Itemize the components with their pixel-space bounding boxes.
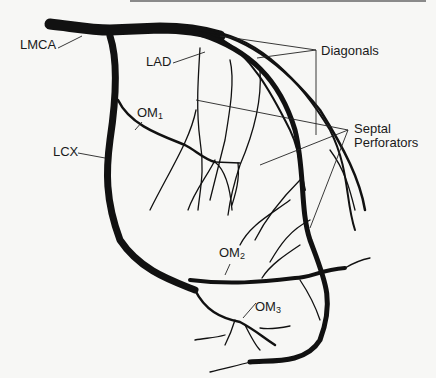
diagonal-3	[220, 38, 305, 190]
label-diagonals: Diagonals	[321, 44, 379, 58]
om1-vessel	[118, 100, 215, 162]
lcx-vessel	[107, 36, 195, 290]
label-om1-base: OM	[137, 105, 158, 120]
lmca-vessel	[50, 24, 220, 36]
label-lcx: LCX	[53, 145, 78, 159]
label-septal: Septal	[354, 122, 391, 136]
om2-leader	[225, 264, 230, 275]
label-lad: LAD	[146, 55, 171, 69]
label-om3-sub: 3	[276, 305, 281, 315]
septal-leader-3	[310, 130, 348, 228]
label-om2-sub: 2	[240, 251, 245, 261]
label-lmca: LMCA	[20, 38, 56, 52]
label-perforators: Perforators	[354, 136, 418, 150]
septal-leader-1	[196, 100, 348, 130]
septal-leader-2	[260, 130, 348, 165]
lad-leader	[173, 52, 205, 63]
lmca-leader	[58, 36, 82, 48]
label-om1-sub: 1	[158, 111, 163, 121]
lcx-leader	[78, 153, 105, 158]
label-om3: OM3	[255, 300, 281, 317]
label-om1: OM1	[137, 106, 163, 123]
label-om2-base: OM	[219, 245, 240, 260]
label-om3-base: OM	[255, 299, 276, 314]
label-om2: OM2	[219, 246, 245, 263]
